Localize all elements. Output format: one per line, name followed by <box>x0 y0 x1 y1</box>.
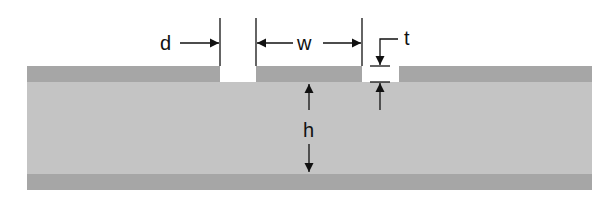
width-label: w <box>296 32 312 54</box>
width-dimension-w: w <box>257 32 361 54</box>
right-coplanar-ground <box>399 66 592 82</box>
signal-trace <box>256 66 362 82</box>
gap-label: d <box>160 32 171 54</box>
cpwg-cross-section-diagram: d w t h <box>0 0 612 197</box>
gap-dimension-d: d <box>160 32 219 54</box>
ground-plane <box>27 174 592 190</box>
thickness-label: t <box>404 27 410 49</box>
left-coplanar-ground <box>27 66 220 82</box>
height-label: h <box>303 119 314 141</box>
dimension-extension-lines <box>220 18 362 66</box>
